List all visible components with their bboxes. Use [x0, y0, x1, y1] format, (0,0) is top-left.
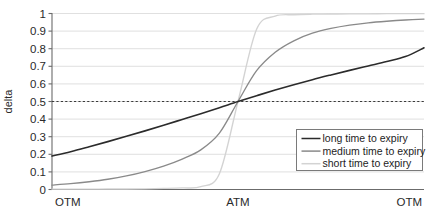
y-axis-tick-labels: 00.10.20.30.40.50.60.70.80.91 [30, 8, 47, 196]
x-tick-label-2: OTM [396, 196, 422, 208]
y-tick-label-0.9: 0.9 [30, 25, 46, 37]
x-tick-label-1: ATM [226, 196, 249, 208]
legend-label-0: long time to expiry [323, 132, 409, 144]
chart-legend: long time to expirymedium time to expiry… [297, 130, 426, 171]
y-tick-label-0.7: 0.7 [30, 60, 46, 72]
y-tick-label-0: 0 [40, 184, 46, 196]
y-tick-label-0.2: 0.2 [30, 148, 46, 160]
legend-label-1: medium time to expiry [323, 145, 426, 157]
y-tick-label-0.4: 0.4 [30, 113, 47, 125]
y-axis-title: delta [2, 89, 14, 114]
y-tick-label-0.5: 0.5 [30, 96, 46, 108]
y-tick-label-1: 1 [40, 8, 46, 20]
y-tick-label-0.1: 0.1 [30, 166, 46, 178]
y-tick-label-0.8: 0.8 [30, 43, 46, 55]
x-axis-tick-labels: OTMATMOTM [55, 196, 422, 208]
delta-vs-moneyness-chart: 00.10.20.30.40.50.60.70.80.91 delta OTMA… [0, 0, 434, 222]
chart-canvas: 00.10.20.30.40.50.60.70.80.91 delta OTMA… [0, 0, 434, 222]
y-tick-label-0.6: 0.6 [30, 78, 46, 90]
x-tick-label-0: OTM [55, 196, 81, 208]
legend-label-2: short time to expiry [323, 157, 412, 169]
y-tick-label-0.3: 0.3 [30, 131, 46, 143]
